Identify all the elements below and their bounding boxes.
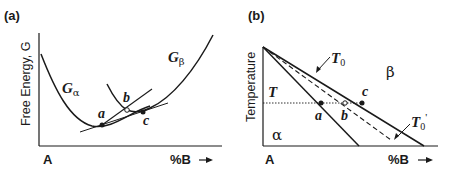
label-a: a <box>315 108 322 123</box>
y-axis-label: Free Energy, G <box>19 41 33 126</box>
label-b: b <box>123 90 130 105</box>
t0-label: T0 <box>331 50 345 68</box>
label-a: a <box>98 106 105 121</box>
arrow-head-icon <box>426 157 433 163</box>
phase-beta-label: β <box>386 63 395 81</box>
origin-label: A <box>265 152 275 167</box>
t0-prime-pointer-head-icon <box>394 133 399 140</box>
panel-a: (a) Free Energy, G A %B a b c Gα Gβ <box>4 8 222 167</box>
label-c: c <box>143 113 150 128</box>
x-axis-label: %B <box>170 152 191 167</box>
g-alpha-curve <box>41 54 150 127</box>
label-b: b <box>341 108 348 123</box>
t0-pointer-icon <box>318 57 330 70</box>
origin-label: A <box>43 152 53 167</box>
point-a <box>319 101 324 106</box>
g-alpha-label: Gα <box>62 80 80 98</box>
point-c <box>360 101 365 106</box>
y-axis-label: Temperature <box>244 52 258 122</box>
temperature-label: T <box>268 84 278 100</box>
point-b <box>125 108 130 113</box>
point-a <box>100 123 105 128</box>
g-beta-label: Gβ <box>168 49 185 67</box>
label-c: c <box>362 84 369 99</box>
phase-alpha-label: α <box>272 126 282 144</box>
arrow-head-icon <box>206 157 213 163</box>
panel-b-tag: (b) <box>248 8 265 23</box>
t0-prime-label: T0' <box>411 111 427 132</box>
point-b <box>343 101 347 105</box>
x-axis-label: %B <box>388 152 409 167</box>
figure: (a) Free Energy, G A %B a b c Gα Gβ (b) … <box>0 0 455 174</box>
panel-b: (b) Temperature A %B a b c T α β T0 T0' <box>244 8 438 167</box>
panel-a-tag: (a) <box>4 8 20 23</box>
